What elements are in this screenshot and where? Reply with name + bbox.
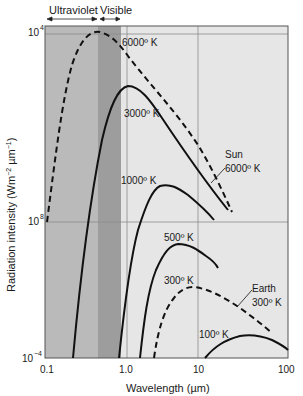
- sun-annotation-line2: 6000º K: [225, 163, 261, 174]
- blackbody-chart: Ultraviolet Visible 6000º K 3000º K 1000…: [0, 0, 303, 396]
- visible-label: Visible: [100, 4, 132, 16]
- ultraviolet-band: [45, 26, 98, 358]
- x-tick-100: 100: [278, 364, 295, 375]
- band-arrows: [47, 17, 120, 21]
- y-tick-bottom: 10 −4: [22, 350, 42, 364]
- svg-text:10: 10: [22, 353, 34, 364]
- x-axis-label: Wavelength (µm): [126, 382, 210, 394]
- visible-band: [98, 26, 121, 358]
- svg-text:−4: −4: [34, 350, 42, 357]
- earth-annotation-line2: 300º K: [252, 297, 282, 308]
- sun-annotation-line1: Sun: [225, 149, 243, 160]
- curve-label-100k: 100º K: [199, 329, 229, 340]
- earth-annotation-line1: Earth: [252, 283, 276, 294]
- curve-label-1000k: 1000º K: [121, 175, 157, 186]
- curve-label-6000k: 6000º K: [122, 37, 158, 48]
- x-tick-1.0: 1.0: [119, 364, 133, 375]
- x-tick-0.1: 0.1: [40, 364, 54, 375]
- x-tick-10: 10: [193, 364, 205, 375]
- svg-text:4: 4: [40, 24, 44, 31]
- svg-text:10: 10: [28, 216, 40, 227]
- curve-label-3000k: 3000º K: [124, 108, 160, 119]
- curve-label-500k: 500º K: [164, 232, 194, 243]
- y-axis-label: Radiation intensity (Wm−2 µm−1): [5, 138, 17, 292]
- y-tick-mid: 10 8: [28, 213, 44, 227]
- svg-text:8: 8: [40, 213, 44, 220]
- curve-label-300k: 300º K: [164, 275, 194, 286]
- ultraviolet-label: Ultraviolet: [49, 4, 98, 16]
- y-tick-top: 10 4: [28, 24, 44, 38]
- svg-text:10: 10: [28, 27, 40, 38]
